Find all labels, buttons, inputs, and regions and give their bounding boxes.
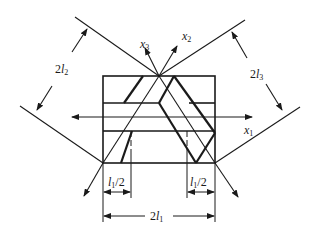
outer-lines: [20, 17, 300, 163]
dim-2l3-label: 2l3: [250, 67, 263, 82]
ray-bottom-right: [215, 107, 300, 163]
dim-2l2-label: 2l2: [55, 62, 68, 77]
bottom-left-arrow: [84, 163, 103, 196]
diagram-canvas: x3 x2 x1 2l2 2l3 l1/2 l1/2 2l1: [0, 0, 318, 235]
ray-top-right: [159, 20, 245, 76]
x2-label: x2: [181, 29, 191, 44]
ray-bottom-left: [20, 106, 103, 163]
dim-l1-half-left-label: l1/2: [108, 175, 125, 190]
x3-axis-arrow: [145, 48, 159, 76]
plate-outline: [103, 76, 215, 163]
dim-2l1-label: 2l1: [150, 209, 163, 224]
x3-label: x3: [139, 37, 149, 52]
x2-axis-arrow: [159, 46, 177, 76]
right-band-inner-edge: [159, 103, 196, 163]
left-band-edge-top: [124, 76, 143, 103]
x1-label: x1: [243, 123, 253, 138]
dim-l1-half-right-label: l1/2: [190, 175, 207, 190]
bottom-right-arrow: [215, 163, 238, 197]
left-band-edge-bottom: [121, 131, 132, 163]
axes: [72, 46, 252, 197]
right-band-outer-edge: [174, 76, 215, 133]
plate: [103, 76, 215, 163]
